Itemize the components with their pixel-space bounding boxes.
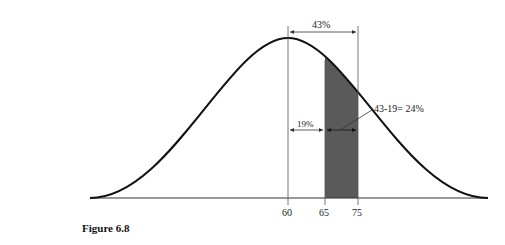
normal-curve-diagram: 43% 19% 43-19= 24% 60 65 75 [0,0,505,245]
normal-curve [90,38,488,198]
shaded-region [325,30,358,198]
label-19: 19% [297,119,314,129]
tick-75: 75 [352,207,362,218]
figure-caption: Figure 6.8 [82,222,129,234]
figure: 43% 19% 43-19= 24% 60 65 75 Figure 6.8 [0,0,505,245]
label-24: 43-19= 24% [374,103,424,114]
label-43: 43% [312,19,330,30]
tick-60: 60 [282,207,292,218]
tick-65: 65 [319,207,329,218]
